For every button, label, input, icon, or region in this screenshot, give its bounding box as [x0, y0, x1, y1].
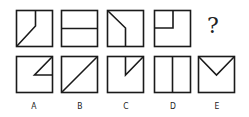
question-mark: ?	[207, 13, 219, 38]
option-figure-d[interactable]	[155, 57, 191, 93]
option-label-a: A	[26, 101, 43, 111]
question-figure-4	[155, 11, 191, 47]
option-label-d: D	[165, 101, 182, 111]
question-figure-1	[17, 11, 53, 47]
option-figure-b[interactable]	[62, 57, 98, 93]
question-figure-2	[62, 11, 98, 47]
option-figure-c[interactable]	[108, 57, 144, 93]
option-figure-e[interactable]	[199, 57, 235, 93]
option-label-c: C	[118, 101, 135, 111]
option-figure-a[interactable]	[17, 57, 53, 93]
question-figure-3	[108, 11, 144, 47]
option-label-b: B	[72, 101, 89, 111]
option-label-e: E	[209, 101, 226, 111]
